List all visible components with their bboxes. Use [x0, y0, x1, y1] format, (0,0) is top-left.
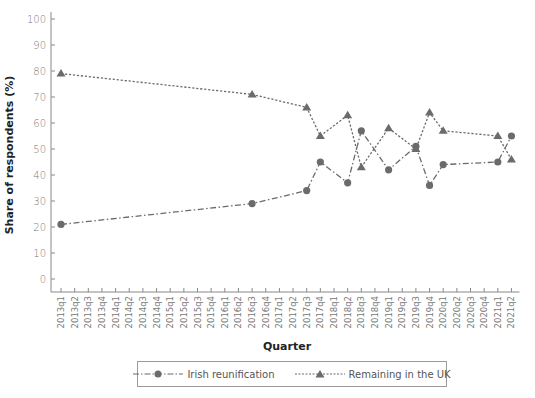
y-tick-label: 80: [33, 66, 46, 77]
data-point-triangle: [425, 108, 434, 116]
x-tick-label: 2018q2: [343, 296, 353, 328]
x-tick-label: 2020q4: [479, 296, 489, 328]
y-tick-label: 90: [33, 40, 46, 51]
x-tick-label: 2018q4: [370, 296, 380, 328]
x-tick-label: 2015q1: [165, 296, 175, 328]
x-tick-label: 2016q2: [233, 296, 243, 328]
x-tick-label: 2015q3: [193, 296, 203, 328]
x-tick-label: 2017q4: [315, 296, 325, 328]
dotted-triangle-icon: [295, 369, 345, 379]
x-tick-label: 2019q1: [384, 296, 394, 328]
x-tick-label: 2020q3: [466, 296, 476, 328]
data-point-triangle: [384, 124, 393, 132]
data-point-circle: [303, 187, 310, 194]
x-tick-label: 2016q4: [261, 296, 271, 328]
x-tick-label: 2013q2: [70, 296, 80, 328]
x-tick-label: 2019q4: [425, 296, 435, 328]
y-axis-title: Share of respondents (%): [3, 76, 16, 235]
x-tick-label: 2013q3: [83, 296, 93, 328]
x-tick-label: 2017q3: [302, 296, 312, 328]
data-point-triangle: [343, 111, 352, 119]
y-tick-label: 40: [33, 170, 46, 181]
x-tick-label: 2013q1: [56, 296, 66, 328]
data-point-circle: [249, 200, 256, 207]
x-tick-label: 2016q1: [220, 296, 230, 328]
data-point-triangle: [493, 132, 502, 140]
data-point-circle: [57, 221, 64, 228]
legend-item-remaining-in-uk: Remaining in the UK: [295, 369, 451, 380]
y-tick-label: 30: [33, 196, 46, 207]
x-tick-label: 2018q3: [356, 296, 366, 328]
y-tick-label: 60: [33, 118, 46, 129]
y-tick-label: 100: [27, 14, 46, 25]
data-point-circle: [385, 166, 392, 173]
y-tick-label: 0: [40, 274, 46, 285]
x-tick-label: 2014q3: [138, 296, 148, 328]
x-axis: 2013q12013q22013q32013q42014q12014q22014…: [51, 288, 519, 328]
line-chart: 0102030405060708090100 2013q12013q22013q…: [0, 0, 535, 360]
data-point-circle: [358, 127, 365, 134]
x-tick-label: 2020q1: [438, 296, 448, 328]
x-axis-title: Quarter: [263, 340, 312, 353]
legend: Irish reunification Remaining in the UK: [137, 361, 447, 387]
legend-label: Remaining in the UK: [349, 369, 451, 380]
y-tick-label: 10: [33, 248, 46, 259]
data-point-triangle: [316, 132, 325, 140]
dash-dot-circle-icon: [133, 369, 183, 379]
data-point-triangle: [439, 126, 448, 134]
data-point-circle: [317, 158, 324, 165]
data-point-circle: [344, 179, 351, 186]
x-tick-label: 2018q1: [329, 296, 339, 328]
data-point-circle: [440, 161, 447, 168]
x-tick-label: 2019q3: [411, 296, 421, 328]
x-tick-label: 2021q1: [493, 296, 503, 328]
data-point-circle: [508, 132, 515, 139]
y-tick-label: 70: [33, 92, 46, 103]
legend-item-irish-reunification: Irish reunification: [133, 369, 274, 380]
legend-label: Irish reunification: [187, 369, 274, 380]
x-tick-label: 2014q2: [124, 296, 134, 328]
x-tick-label: 2021q2: [506, 296, 516, 328]
x-tick-label: 2017q2: [288, 296, 298, 328]
x-tick-label: 2017q1: [274, 296, 284, 328]
x-tick-label: 2019q2: [397, 296, 407, 328]
x-tick-label: 2015q4: [206, 296, 216, 328]
x-tick-label: 2014q1: [111, 296, 121, 328]
x-tick-label: 2015q2: [179, 296, 189, 328]
x-tick-label: 2016q3: [247, 296, 257, 328]
y-tick-label: 50: [33, 144, 46, 155]
series-layer: [57, 69, 516, 228]
data-point-triangle: [507, 155, 516, 163]
data-point-circle: [426, 182, 433, 189]
data-point-circle: [494, 158, 501, 165]
x-tick-label: 2013q4: [97, 296, 107, 328]
y-tick-label: 20: [33, 222, 46, 233]
x-tick-label: 2014q4: [152, 296, 162, 328]
data-point-triangle: [57, 69, 66, 77]
x-tick-label: 2020q2: [452, 296, 462, 328]
y-axis: 0102030405060708090100: [27, 12, 55, 292]
